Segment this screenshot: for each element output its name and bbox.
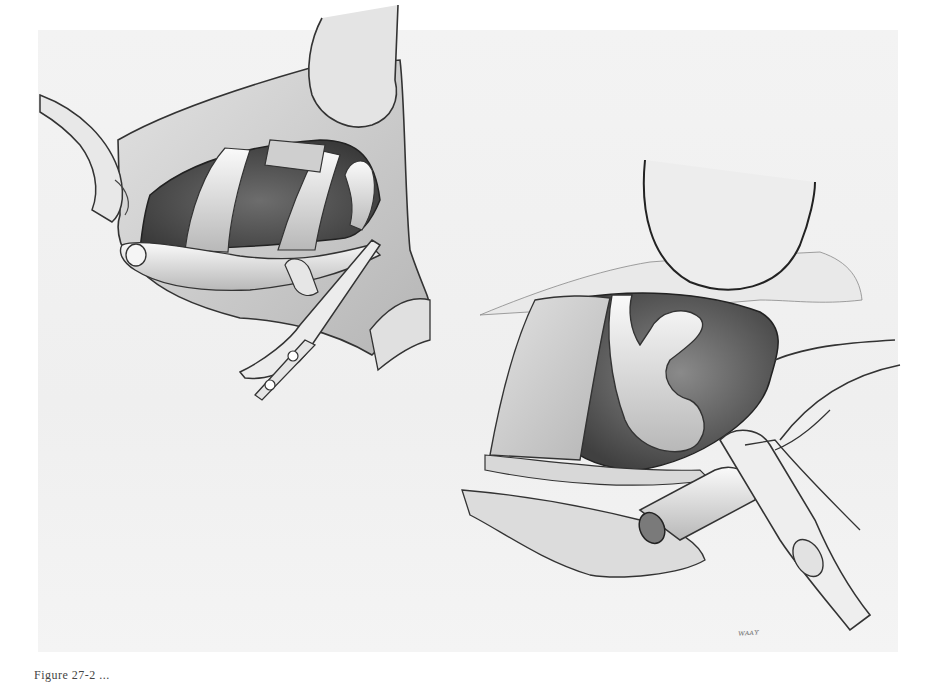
retractor-top xyxy=(309,5,398,127)
clamp-right xyxy=(720,430,870,630)
suture-strand xyxy=(780,365,900,440)
retractor-left xyxy=(40,95,122,222)
suture-strand xyxy=(775,410,830,450)
vessel-lumen-left xyxy=(126,244,146,266)
figure-caption: Figure 27-2 ... xyxy=(34,668,914,682)
suture-strand xyxy=(775,340,895,360)
forceps-hole xyxy=(265,380,275,390)
right-panel-drawing xyxy=(462,160,900,630)
artist-signature: ᴡᴀᴀʏ xyxy=(738,627,760,637)
left-panel-drawing xyxy=(40,5,430,400)
forceps-hole xyxy=(288,351,298,361)
